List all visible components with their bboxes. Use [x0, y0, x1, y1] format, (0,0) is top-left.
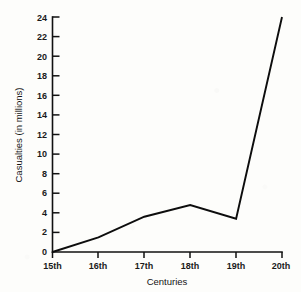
y-tick-label-12: 12	[37, 130, 47, 140]
y-tick-label-10: 10	[37, 149, 47, 159]
y-tick-label-14: 14	[37, 110, 47, 120]
x-tick-label-19th: 19th	[227, 261, 246, 271]
y-tick-label-20: 20	[37, 52, 47, 62]
chart-screenshot: Casualties (in millions) 24 22 20 18 16 …	[0, 0, 301, 292]
y-tick-label-16: 16	[37, 91, 47, 101]
x-tick-label-16th: 16th	[89, 261, 108, 271]
y-tick-label-0: 0	[42, 247, 47, 257]
x-tick-label-18th: 18th	[181, 261, 200, 271]
y-axis-title: Casualties (in millions)	[13, 87, 24, 182]
y-tick-label-18: 18	[37, 71, 47, 81]
y-tick-label-8: 8	[42, 169, 47, 179]
y-tick-label-4: 4	[42, 208, 47, 218]
y-tick-label-6: 6	[42, 188, 47, 198]
y-tick-label-24: 24	[37, 13, 47, 23]
x-tick-label-17th: 17th	[135, 261, 154, 271]
casualties-series-line	[53, 17, 283, 252]
x-axis-title: Centuries	[147, 276, 188, 287]
x-tick-label-15th: 15th	[43, 261, 62, 271]
y-tick-label-2: 2	[42, 227, 47, 237]
line-chart: Casualties (in millions) 24 22 20 18 16 …	[0, 0, 301, 292]
y-tick-label-22: 22	[37, 32, 47, 42]
x-tick-label-20th: 20th	[272, 261, 291, 271]
